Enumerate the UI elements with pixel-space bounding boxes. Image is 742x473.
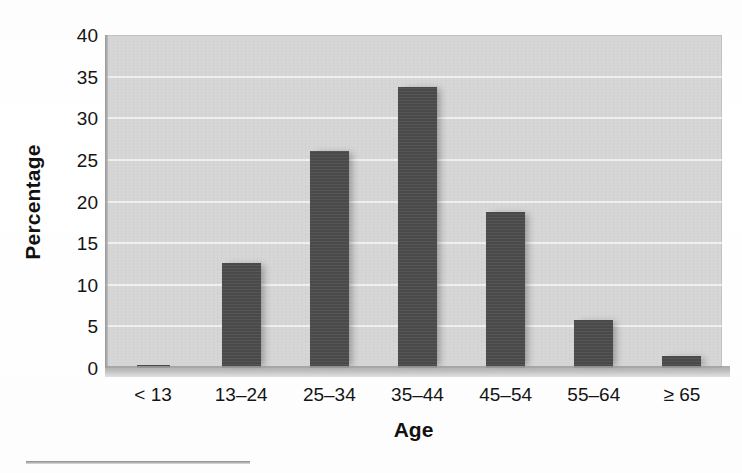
y-axis-tick-label: 15 [52, 234, 98, 253]
bar [222, 263, 261, 368]
y-axis-tick-label: 20 [52, 192, 98, 211]
bar-chart-figure: Percentage 0510152025303540 < 1313–2425–… [0, 0, 742, 473]
y-axis-tick-label: 5 [52, 317, 98, 336]
y-axis-tick-label: 10 [52, 275, 98, 294]
x-axis-baseline [105, 366, 730, 377]
y-axis-tick-label: 30 [52, 109, 98, 128]
x-axis-tick-label: 13–24 [215, 383, 268, 408]
y-axis-tick-label: 35 [52, 67, 98, 86]
plot-area [105, 35, 722, 368]
y-axis-line [105, 35, 108, 368]
y-axis-tick-label: 0 [52, 359, 98, 378]
y-axis-tick-label: 25 [52, 150, 98, 169]
bar [310, 151, 349, 368]
x-axis-tick-label: 55–64 [567, 383, 620, 408]
bar [486, 212, 525, 369]
x-axis-title: Age [105, 418, 722, 442]
x-axis-tick-label: ≥ 65 [664, 383, 701, 408]
x-axis-tick-label: 35–44 [391, 383, 444, 408]
scan-artifact-rule [26, 461, 250, 464]
x-axis-tick-label: < 13 [134, 383, 172, 408]
x-axis-tick-label: 25–34 [303, 383, 356, 408]
x-axis-tick-labels: < 1313–2425–3435–4445–5455–64≥ 65 [105, 383, 722, 411]
bar-series [105, 35, 722, 368]
bar [398, 87, 437, 368]
y-axis-tick-labels: 0510152025303540 [52, 35, 98, 368]
y-axis-title: Percentage [21, 107, 45, 297]
bar [574, 320, 613, 368]
y-axis-tick-label: 40 [52, 26, 98, 45]
x-axis-tick-label: 45–54 [479, 383, 532, 408]
